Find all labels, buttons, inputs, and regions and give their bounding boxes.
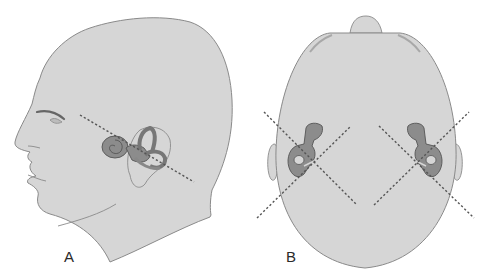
- panel-b-head-top: [257, 16, 474, 268]
- figure-canvas: [0, 0, 486, 279]
- panel-a-head-profile: [15, 18, 232, 262]
- nose-top: [350, 16, 382, 33]
- panel-label-b: B: [286, 248, 296, 265]
- panel-label-a: A: [64, 248, 74, 265]
- inner-ear-orientation-figure: A B: [0, 0, 486, 279]
